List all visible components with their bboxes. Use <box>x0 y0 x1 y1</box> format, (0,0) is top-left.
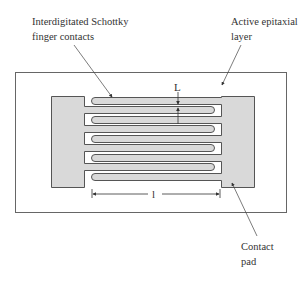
epi-label-line1: Active epitaxial <box>231 16 298 27</box>
length-label: l <box>152 188 155 200</box>
fingers-label-line2: finger contacts <box>32 31 94 42</box>
pad-label-line2: pad <box>241 256 257 267</box>
msm-diagram: L l Interdigitated Schottky finger conta… <box>0 0 308 283</box>
epi-label-line2: layer <box>231 31 252 42</box>
fingers-label-line1: Interdigitated Schottky <box>32 16 129 27</box>
spacing-label: L <box>174 81 181 93</box>
pad-label-line1: Contact <box>241 241 274 252</box>
